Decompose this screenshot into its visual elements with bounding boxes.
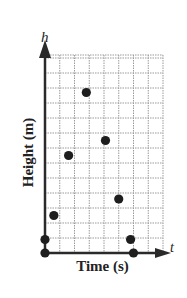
data-point: [40, 248, 49, 257]
data-point: [64, 151, 73, 160]
data-point: [101, 136, 110, 145]
y-axis-label: Height (m): [14, 102, 44, 202]
data-point: [49, 211, 58, 220]
y-axis-variable: h: [41, 29, 49, 46]
x-axis-arrow-icon: [155, 248, 171, 258]
x-axis-label: Time (s): [55, 258, 150, 275]
x-axis-variable: t: [170, 240, 174, 256]
data-point: [82, 88, 91, 97]
y-axis-label-text: Height (m): [21, 117, 38, 187]
grid-lines: [45, 55, 163, 253]
data-point: [129, 248, 138, 257]
data-point: [114, 194, 123, 203]
data-point: [126, 235, 135, 244]
data-point: [40, 235, 49, 244]
